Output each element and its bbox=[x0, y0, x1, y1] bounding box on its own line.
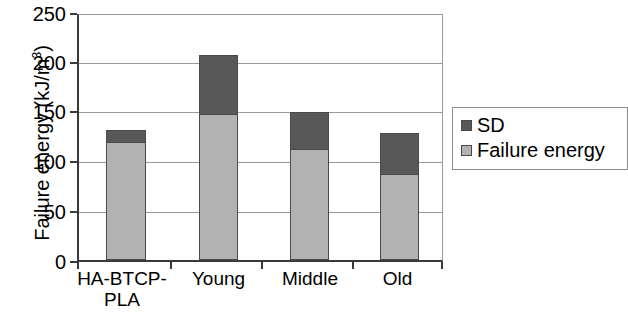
x-axis-label-old: Old bbox=[355, 268, 440, 289]
legend: SD Failure energy bbox=[452, 107, 628, 170]
y-tick-mark-0 bbox=[70, 261, 77, 263]
x-axis-label-middle: Middle bbox=[255, 268, 365, 289]
legend-label-sd: SD bbox=[477, 115, 505, 136]
plot-area bbox=[77, 14, 443, 262]
bar-segment-failure-energy bbox=[290, 149, 329, 260]
bar-segment-sd bbox=[290, 112, 329, 150]
y-tick-mark-250 bbox=[70, 13, 77, 15]
y-tick-label-0: 0 bbox=[14, 252, 66, 272]
y-tick-label-150: 150 bbox=[14, 102, 66, 122]
legend-item-sd: SD bbox=[461, 113, 621, 138]
y-tick-label-100: 100 bbox=[14, 152, 66, 172]
bar-segment-failure-energy bbox=[106, 142, 146, 260]
x-axis-label-ha-btcp-pla: HA-BTCP- PLA bbox=[62, 268, 182, 310]
x-axis-label-line2: PLA bbox=[62, 289, 182, 310]
y-tick-mark-150 bbox=[70, 111, 77, 113]
bar-middle bbox=[290, 112, 329, 260]
x-tick-mark-4 bbox=[441, 262, 443, 269]
y-axis-title-tail: ) bbox=[31, 45, 53, 52]
bar-old bbox=[380, 133, 419, 260]
bar-segment-sd bbox=[199, 55, 238, 115]
x-axis-label-line1: HA-BTCP- bbox=[62, 268, 182, 289]
y-tick-label-250: 250 bbox=[14, 4, 66, 24]
y-tick-mark-100 bbox=[70, 161, 77, 163]
y-tick-label-50: 50 bbox=[14, 202, 66, 222]
y-tick-mark-200 bbox=[70, 62, 77, 64]
bar-segment-sd bbox=[380, 133, 419, 175]
bar-ha-btcp-pla bbox=[106, 130, 146, 260]
y-tick-mark-50 bbox=[70, 211, 77, 213]
bar-segment-failure-energy bbox=[199, 114, 238, 260]
gridline-150 bbox=[79, 112, 442, 113]
bar-segment-failure-energy bbox=[380, 174, 419, 260]
gridline-200 bbox=[79, 63, 442, 64]
bar-young bbox=[199, 55, 238, 260]
legend-label-failure-energy: Failure energy bbox=[477, 140, 605, 161]
y-tick-label-200: 200 bbox=[14, 53, 66, 73]
legend-swatch-sd-icon bbox=[461, 120, 472, 131]
legend-item-failure-energy: Failure energy bbox=[461, 138, 621, 163]
legend-swatch-failure-energy-icon bbox=[461, 145, 472, 156]
